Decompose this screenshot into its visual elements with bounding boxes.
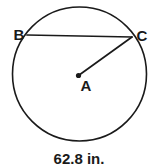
measurement-caption: 62.8 in. <box>54 150 105 167</box>
point-b-label: B <box>14 26 25 43</box>
center-a-label: A <box>81 77 92 94</box>
point-c-label: C <box>137 27 148 44</box>
geometry-canvas: B C A 62.8 in. <box>0 0 158 168</box>
radius-ac-line <box>79 37 133 76</box>
circle-diagram-figure: B C A 62.8 in. <box>0 0 158 168</box>
chord-bc-line <box>27 35 132 37</box>
